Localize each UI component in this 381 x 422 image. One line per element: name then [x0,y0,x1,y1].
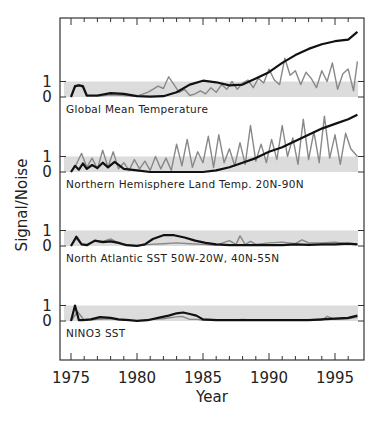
x-tick-label: 1995 [316,369,354,387]
noise-band [64,157,358,173]
y-tick-label: 0 [42,237,52,255]
y-tick-label: 1 [42,148,52,166]
y-tick-label: 1 [42,222,52,240]
panel-labels: Global Mean TemperatureNorthern Hemisphe… [66,103,304,339]
y-axis-title: Signal/Noise [13,159,31,252]
panel-label: Global Mean Temperature [66,103,208,115]
data-series [71,32,357,321]
panel-label: North Atlantic SST 50W-20W, 40N-55N [66,252,279,264]
y-tick-labels: 01010101 [42,73,52,331]
x-tick-label: 1975 [52,369,90,387]
x-axis-title: Year [195,388,229,406]
x-tick-label: 1985 [184,369,222,387]
panel-label: NINO3 SST [66,327,126,339]
x-tick-label: 1990 [250,369,288,387]
panel-label: Northern Hemisphere Land Temp. 20N-90N [66,178,304,190]
noise-bands [64,82,358,322]
x-tick-labels: 19751980198519901995 [52,369,354,387]
y-tick-label: 1 [42,297,52,315]
y-tick-label: 0 [42,312,52,330]
y-tick-label: 0 [42,88,52,106]
x-tick-label: 1980 [118,369,156,387]
y-tick-label: 0 [42,163,52,181]
y-tick-label: 1 [42,73,52,91]
signal-noise-chart: 01010101 19751980198519901995 Global Mea… [0,0,381,422]
